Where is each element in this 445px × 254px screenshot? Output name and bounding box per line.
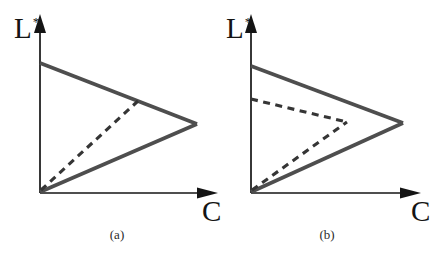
panel-a-dashed-gamut-lower-edge [41, 101, 138, 190]
panel-a-y-axis-label-superscript: * [33, 14, 40, 29]
gamut-figure: L* C (a) L* C (b) [0, 0, 445, 254]
panel-a-caption: (a) [95, 228, 139, 241]
panel-a-y-axis-label-text: L [14, 12, 32, 44]
panel-b-y-axis-label-superscript: * [245, 14, 252, 29]
panel-b-x-axis-label: C [411, 197, 430, 226]
panel-a-y-axis-label: L* [14, 14, 39, 43]
panel-a-x-axis-label: C [202, 197, 221, 226]
panel-a-solid-gamut-lower-edge [40, 124, 197, 192]
diagram-canvas [0, 0, 445, 254]
panel-b-dashed-gamut-upper-edge [251, 99, 347, 122]
panel-b-caption: (b) [305, 228, 349, 241]
panel-b-solid-gamut-lower-edge [251, 123, 403, 192]
panel-b-solid-gamut-upper-edge [251, 66, 403, 123]
panel-a-solid-gamut-upper-edge [40, 63, 197, 124]
panel-b-y-axis-label-text: L [226, 12, 244, 44]
panel-b-y-axis-label: L* [226, 14, 251, 43]
